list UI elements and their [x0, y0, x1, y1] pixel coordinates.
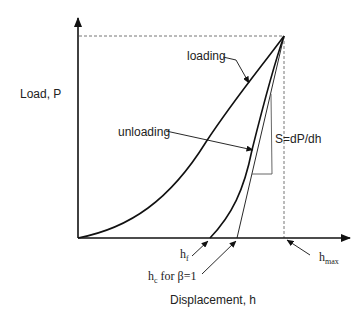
x-axis-label: Displacement, h [170, 294, 256, 306]
hmax-label: hmax [319, 251, 339, 263]
diagram-graphics [0, 0, 364, 312]
hc-leader-arrow [202, 241, 236, 274]
stiffness-label: S=dP/dh [275, 133, 321, 145]
loading-leader-arrow [223, 57, 249, 83]
loading-label: loading [187, 50, 226, 62]
hf-leader-arrow [192, 241, 208, 256]
hmax-sub: max [325, 257, 339, 266]
hc-label: hc for β=1 [148, 270, 196, 282]
hc-sub: c [154, 276, 158, 285]
hc-suffix: for β=1 [158, 269, 197, 283]
load-displacement-diagram: Load, P Displacement, h loading unloadin… [0, 0, 364, 312]
hf-sub: f [186, 254, 189, 263]
y-axis-label: Load, P [20, 88, 61, 100]
loading-curve [78, 36, 284, 238]
unloading-curve [210, 36, 284, 238]
unloading-label: unloading [118, 126, 170, 138]
unloading-leader-arrow [166, 131, 253, 150]
hf-label: hf [180, 248, 189, 260]
hmax-leader-arrow [287, 240, 310, 255]
